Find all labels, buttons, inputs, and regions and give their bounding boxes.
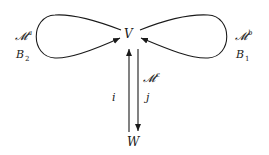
label-b2: B2 [16, 49, 30, 60]
b2-sub: 2 [25, 55, 29, 63]
module-a-base: 𝓜 [15, 30, 27, 43]
node-w: W [127, 136, 139, 148]
label-module-a: 𝓜a [15, 31, 32, 42]
module-b-sup: b [248, 29, 252, 37]
quiver-diagram [0, 0, 269, 155]
label-j: j [146, 92, 149, 103]
label-module-c: 𝓜c [143, 73, 160, 84]
module-c-base: 𝓜 [143, 72, 155, 85]
label-module-b: 𝓜b [235, 31, 252, 42]
module-a-sup: a [28, 29, 32, 37]
label-b1: B1 [236, 49, 250, 60]
module-c-sup: c [156, 71, 160, 79]
b1-base: B [236, 48, 244, 61]
node-v: V [124, 28, 133, 40]
b1-sub: 1 [245, 55, 249, 63]
label-i: i [112, 92, 116, 103]
module-b-base: 𝓜 [235, 30, 247, 43]
loop-b2-arrow [36, 15, 121, 58]
b2-base: B [16, 48, 24, 61]
loop-b1-arrow [140, 15, 227, 58]
